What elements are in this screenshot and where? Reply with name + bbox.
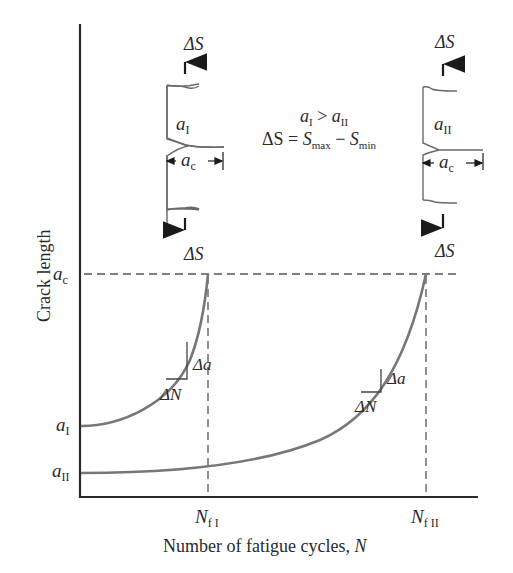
x-tick-nfII: Nf II xyxy=(410,506,439,530)
curves xyxy=(81,274,426,473)
y-tick-labels: ac aI aII xyxy=(52,263,70,484)
crack-label-I: aI xyxy=(176,113,190,137)
specimen-I: ΔS aI ac ΔS xyxy=(167,34,224,264)
y-tick-aII: aII xyxy=(52,460,70,484)
y-tick-aI: aI xyxy=(56,414,70,438)
stress-range-text: ΔS = Smax − Smin xyxy=(262,129,376,151)
inequality-text: aI > aII xyxy=(300,106,348,128)
critical-label-I: ac xyxy=(181,149,196,173)
x-axis-label: Number of fatigue cycles, N xyxy=(163,536,367,556)
delta-n-label-II: ΔN xyxy=(354,397,378,416)
relations: aI > aII ΔS = Smax − Smin xyxy=(262,106,376,151)
load-top-label-II: ΔS xyxy=(434,32,455,52)
x-tick-labels: Nf I Nf II xyxy=(194,506,439,530)
curve-I xyxy=(81,274,208,426)
axes xyxy=(79,24,478,498)
crack-growth-diagram: Δa ΔN Δa ΔN Crack length ac aI aII Nf I … xyxy=(0,0,513,573)
delta-a-label-I: Δa xyxy=(192,355,211,374)
slope-labels: Δa ΔN Δa ΔN xyxy=(159,355,405,416)
x-tick-nfI: Nf I xyxy=(194,506,219,530)
crack-label-II: aII xyxy=(434,113,452,137)
y-tick-ac: ac xyxy=(53,263,68,287)
delta-a-label-II: Δa xyxy=(386,369,405,388)
delta-n-label-I: ΔN xyxy=(159,385,183,404)
load-bottom-label-II: ΔS xyxy=(434,241,455,261)
y-axis-label: Crack length xyxy=(34,230,54,322)
slope-triangle-II xyxy=(361,369,381,392)
load-bottom-label-I: ΔS xyxy=(183,244,204,264)
critical-label-II: ac xyxy=(439,151,454,175)
load-top-label-I: ΔS xyxy=(183,34,204,54)
specimen-II: ΔS aII ac ΔS xyxy=(423,32,483,261)
curve-II xyxy=(81,274,426,473)
